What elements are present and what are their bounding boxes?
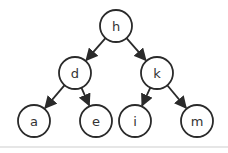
edge-d-e	[81, 88, 89, 106]
nodes: hdkaeim	[18, 10, 213, 137]
node-m: m	[181, 105, 213, 137]
node-i: i	[119, 105, 151, 137]
divider	[0, 146, 228, 148]
node-a: a	[18, 105, 50, 137]
node-d: d	[59, 57, 91, 89]
edge-d-a	[45, 85, 65, 108]
node-k: k	[141, 57, 173, 89]
edge-k-i	[142, 88, 150, 106]
node-label: a	[30, 114, 38, 129]
node-label: m	[191, 114, 204, 129]
node-label: e	[92, 114, 100, 129]
node-label: h	[112, 19, 120, 34]
node-e: e	[80, 105, 112, 137]
edge-h-k	[127, 38, 146, 60]
edge-k-m	[167, 85, 186, 108]
node-label: k	[153, 66, 161, 81]
node-h: h	[100, 10, 132, 42]
node-label: i	[133, 114, 137, 129]
node-label: d	[71, 66, 79, 81]
tree-diagram: hdkaeim	[0, 0, 228, 153]
edge-h-d	[86, 38, 105, 60]
